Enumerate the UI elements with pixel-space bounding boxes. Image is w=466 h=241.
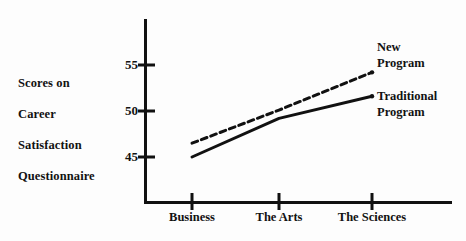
series-line-new-program <box>192 72 372 143</box>
series-endpoint-traditional-program <box>370 94 374 98</box>
series-endpoint-new-program <box>370 70 374 74</box>
series-line-traditional-program <box>192 96 372 157</box>
plot-area <box>0 0 466 241</box>
chart-figure: Scores on Career Satisfaction Questionna… <box>0 0 466 241</box>
